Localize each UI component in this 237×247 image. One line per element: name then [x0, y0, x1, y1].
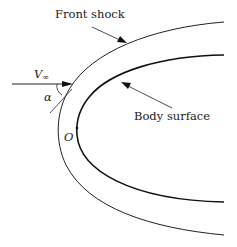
- angle-arc: [57, 84, 62, 95]
- velocity-subscript: ∞: [42, 73, 49, 82]
- front-shock-leader-arrowhead: [117, 36, 127, 43]
- front-shock-leader: [92, 27, 122, 41]
- front-shock-label: Front shock: [55, 9, 125, 21]
- shock-diagram: [0, 0, 237, 247]
- body-surface-label: Body surface: [134, 111, 210, 123]
- origin-label: O: [64, 132, 73, 144]
- velocity-label: V∞: [34, 69, 49, 82]
- origin-point: [76, 127, 79, 130]
- front-shock-curve: [58, 22, 224, 235]
- body-surface-leader: [126, 85, 172, 108]
- body-surface-leader-arrowhead: [121, 82, 131, 89]
- angle-label: α: [44, 92, 52, 104]
- body-surface-curve: [77, 55, 224, 202]
